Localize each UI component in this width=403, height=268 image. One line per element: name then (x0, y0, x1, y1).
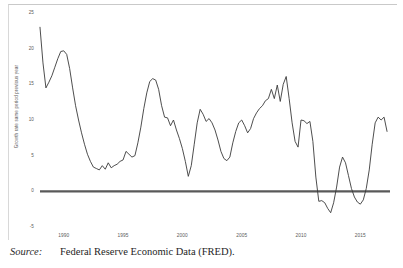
y-tick-10: 10 (20, 117, 34, 122)
x-tick-2000: 2000 (169, 233, 195, 238)
y-tick-15: 15 (20, 81, 34, 86)
figure-container: Growth rate same period previous year 25… (0, 0, 403, 268)
source-label: Source: (10, 246, 60, 257)
x-tick-2015: 2015 (347, 233, 373, 238)
y-tick-5: 5 (20, 153, 34, 158)
y-tick--5: -5 (20, 224, 34, 229)
source-text: Federal Reserve Economic Data (FRED). (60, 246, 235, 257)
y-tick-20: 20 (20, 46, 34, 51)
chart-plot-frame (8, 4, 397, 240)
y-tick-25: 25 (20, 10, 34, 15)
x-tick-2005: 2005 (229, 233, 255, 238)
x-tick-2010: 2010 (288, 233, 314, 238)
y-tick-0: 0 (20, 188, 34, 193)
y-axis-label: Growth rate same period previous year (14, 47, 19, 167)
x-tick-1995: 1995 (110, 233, 136, 238)
x-tick-1990: 1990 (51, 233, 77, 238)
source-caption-row: Source: Federal Reserve Economic Data (F… (10, 246, 400, 257)
